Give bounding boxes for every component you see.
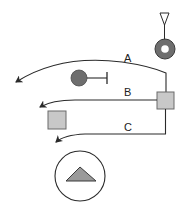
inhibitor-icon [71, 70, 107, 86]
arrow-b: B [40, 86, 157, 107]
arrow-a: A [16, 52, 166, 93]
label-a: A [124, 52, 132, 64]
arrow-c: C [56, 109, 166, 142]
receptor-icon [155, 13, 175, 59]
output-node [55, 151, 105, 201]
target-square-icon [48, 111, 66, 129]
hub-square-icon [157, 92, 174, 109]
pathway-diagram: A B C [0, 0, 184, 221]
label-b: B [124, 86, 131, 98]
label-c: C [124, 121, 132, 133]
